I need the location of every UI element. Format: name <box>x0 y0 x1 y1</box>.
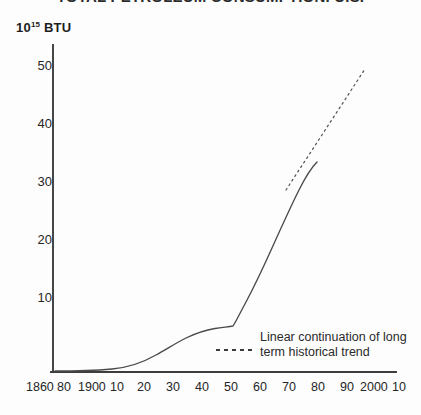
series-line-trend-projection <box>286 69 365 190</box>
x-tick-label-1990: 90 <box>340 380 354 394</box>
x-tick-label-1880: 80 <box>57 380 71 394</box>
x-tick-label-1960: 60 <box>253 380 267 394</box>
x-tick-label-1910: 10 <box>110 380 124 394</box>
x-tick-label-2000: 2000 <box>360 380 388 394</box>
x-tick-label-1980: 80 <box>311 380 325 394</box>
y-tick-label-40: 40 <box>18 116 52 131</box>
y-tick-label-10: 10 <box>18 290 52 305</box>
axes <box>51 45 396 372</box>
data-series-group <box>55 69 365 371</box>
x-tick-label-1940: 40 <box>195 380 209 394</box>
x-tick-label-1950: 50 <box>224 380 238 394</box>
x-tick-label-2010: 10 <box>392 380 406 394</box>
trend-legend-line2: term historical trend <box>260 345 420 360</box>
y-tick-label-20: 20 <box>18 232 52 247</box>
x-tick-label-1930: 30 <box>166 380 180 394</box>
trend-legend-text: Linear continuation of long term histori… <box>260 330 420 360</box>
chart-figure: TOTAL PETROLEUM CONSUMPTION, U.S. 1015 B… <box>0 0 421 415</box>
trend-legend-line1: Linear continuation of long <box>260 330 420 345</box>
y-tick-label-30: 30 <box>18 174 52 189</box>
x-tick-label-1860: 1860 <box>26 380 54 394</box>
x-tick-label-1920: 20 <box>137 380 151 394</box>
x-tick-label-1970: 70 <box>282 380 296 394</box>
x-tick-label-1900: 1900 <box>78 380 106 394</box>
dashed-line-swatch-icon <box>216 349 256 351</box>
y-tick-label-50: 50 <box>18 58 52 73</box>
